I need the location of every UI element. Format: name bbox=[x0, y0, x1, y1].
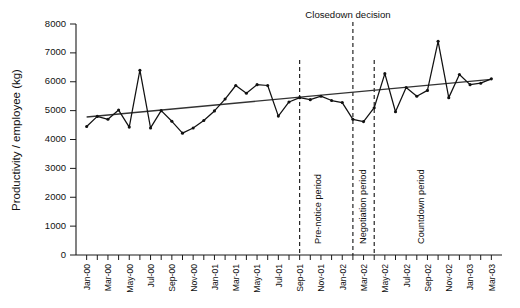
x-axis-tick-label: Nov-00 bbox=[189, 264, 199, 292]
data-point bbox=[255, 83, 258, 86]
x-axis-tick-label: May-02 bbox=[380, 264, 390, 293]
x-axis-tick-label: Sep-01 bbox=[295, 264, 305, 292]
data-point bbox=[479, 82, 482, 85]
data-point bbox=[437, 40, 440, 43]
countdown-period-label: Countdown period bbox=[416, 169, 426, 244]
data-point bbox=[224, 98, 227, 101]
x-axis-tick-labels: Jan-00Mar-00May-00Jul-00Sep-00Nov-00Jan-… bbox=[82, 264, 497, 293]
data-point bbox=[128, 126, 131, 129]
data-point bbox=[160, 109, 163, 112]
y-axis-ticks bbox=[70, 24, 76, 255]
data-point bbox=[192, 126, 195, 129]
x-axis-tick-label: Jan-02 bbox=[338, 264, 348, 290]
data-point bbox=[138, 69, 141, 72]
data-point bbox=[405, 86, 408, 89]
data-point bbox=[181, 132, 184, 135]
data-point bbox=[149, 126, 152, 129]
data-point bbox=[202, 119, 205, 122]
data-point bbox=[170, 120, 173, 123]
data-point bbox=[447, 96, 450, 99]
data-point bbox=[234, 84, 237, 87]
data-point bbox=[415, 95, 418, 98]
y-axis-tick-label: 3000 bbox=[45, 162, 66, 173]
data-point bbox=[213, 109, 216, 112]
negotiation-period-label: Negotiation period bbox=[358, 169, 368, 244]
y-axis-tick-label: 4000 bbox=[45, 133, 66, 144]
data-point bbox=[469, 83, 472, 86]
x-axis-tick-label: May-00 bbox=[125, 264, 135, 293]
x-axis-tick-label: Mar-00 bbox=[103, 264, 113, 291]
data-point bbox=[341, 101, 344, 104]
x-axis-tick-label: Mar-02 bbox=[359, 264, 369, 291]
x-axis-tick-label: Jul-02 bbox=[402, 264, 412, 288]
x-axis-tick-label: May-01 bbox=[252, 264, 262, 293]
x-axis-tick-label: Jul-01 bbox=[274, 264, 284, 288]
data-point bbox=[245, 92, 248, 95]
productivity-series-line bbox=[87, 41, 492, 133]
data-point bbox=[426, 89, 429, 92]
data-point bbox=[490, 77, 493, 80]
data-point bbox=[319, 95, 322, 98]
x-axis-tick-label: Nov-02 bbox=[444, 264, 454, 292]
y-axis-tick-label: 2000 bbox=[45, 191, 66, 202]
closedown-decision-label: Closedown decision bbox=[305, 9, 390, 20]
x-axis-tick-label: Mar-01 bbox=[231, 264, 241, 291]
data-point bbox=[373, 106, 376, 109]
x-axis-ticks bbox=[87, 255, 492, 260]
x-axis-tick-label: Jul-00 bbox=[146, 264, 156, 288]
data-point bbox=[330, 99, 333, 102]
x-axis-tick-label: Mar-03 bbox=[487, 264, 497, 291]
data-point bbox=[362, 120, 365, 123]
x-axis-tick-label: Sep-00 bbox=[167, 264, 177, 292]
pre-notice-period-label: Pre-notice period bbox=[313, 174, 323, 244]
x-axis-tick-label: Nov-01 bbox=[316, 264, 326, 292]
data-point bbox=[96, 115, 99, 118]
x-axis-tick-label: Jan-00 bbox=[82, 264, 92, 290]
data-point bbox=[266, 84, 269, 87]
chart-axes bbox=[76, 24, 502, 255]
chart-canvas: 010002000300040005000600070008000 Jan-00… bbox=[0, 0, 520, 308]
data-point bbox=[117, 109, 120, 112]
data-point bbox=[287, 100, 290, 103]
x-axis-tick-label: Jan-01 bbox=[210, 264, 220, 290]
y-axis-tick-label: 5000 bbox=[45, 104, 66, 115]
y-axis-tick-labels: 010002000300040005000600070008000 bbox=[45, 18, 66, 260]
y-axis-tick-label: 8000 bbox=[45, 18, 66, 29]
data-point bbox=[309, 98, 312, 101]
y-axis-tick-label: 6000 bbox=[45, 75, 66, 86]
productivity-line-chart: 010002000300040005000600070008000 Jan-00… bbox=[0, 0, 520, 308]
data-point bbox=[394, 110, 397, 113]
data-point bbox=[351, 118, 354, 121]
y-axis-title: Productivity / employee (kg) bbox=[10, 69, 22, 211]
data-point bbox=[458, 73, 461, 76]
y-axis-tick-label: 0 bbox=[61, 249, 66, 260]
productivity-series-markers bbox=[85, 40, 493, 135]
data-point bbox=[277, 115, 280, 118]
data-point bbox=[383, 72, 386, 75]
data-point bbox=[298, 96, 301, 99]
x-axis-tick-label: Jan-03 bbox=[465, 264, 475, 290]
y-axis-tick-label: 1000 bbox=[45, 220, 66, 231]
data-point bbox=[85, 125, 88, 128]
data-point bbox=[106, 118, 109, 121]
x-axis-tick-label: Sep-02 bbox=[423, 264, 433, 292]
y-axis-tick-label: 7000 bbox=[45, 46, 66, 57]
